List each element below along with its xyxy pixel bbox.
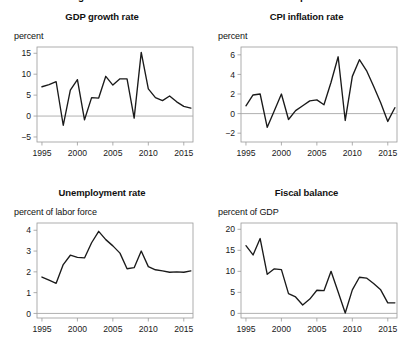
data-series-line xyxy=(246,239,395,313)
y-tick-label: 4 xyxy=(26,225,31,235)
y-tick-label: 10 xyxy=(21,69,31,79)
x-tick-label: 1995 xyxy=(236,324,255,334)
plot-frame xyxy=(241,223,397,318)
y-tick-label: 6 xyxy=(230,50,235,60)
x-tick-label: 2005 xyxy=(307,148,326,158)
plot-frame xyxy=(37,47,193,142)
x-tick-label: 2005 xyxy=(103,324,122,334)
x-tick-label: 2010 xyxy=(343,148,362,158)
chart-fiscal-balance: 0510152019952000200520102015 xyxy=(204,176,409,353)
panel-unemployment-rate: Unemployment rate percent of labor force… xyxy=(0,176,204,353)
x-tick-label: 2015 xyxy=(378,148,397,158)
y-tick-label: 15 xyxy=(225,245,235,255)
data-series-line xyxy=(42,231,191,283)
y-tick-label: 10 xyxy=(225,266,235,276)
x-tick-label: 2005 xyxy=(307,324,326,334)
x-tick-label: 1995 xyxy=(32,148,51,158)
y-tick-label: 0 xyxy=(26,309,31,319)
y-tick-label: 3 xyxy=(26,246,31,256)
y-tick-label: −2 xyxy=(225,128,235,138)
x-tick-label: 2005 xyxy=(103,148,122,158)
y-tick-label: 4 xyxy=(230,70,235,80)
x-tick-label: 2010 xyxy=(139,324,158,334)
y-tick-label: 5 xyxy=(26,90,31,100)
x-tick-label: 2000 xyxy=(272,324,291,334)
y-tick-label: 0 xyxy=(230,308,235,318)
x-tick-label: 2015 xyxy=(174,324,193,334)
chart-cpi-inflation-rate: −2024619952000200520102015 xyxy=(204,0,409,176)
data-series-line xyxy=(246,57,395,128)
y-tick-label: 1 xyxy=(26,288,31,298)
y-tick-label: 5 xyxy=(230,287,235,297)
x-tick-label: 2015 xyxy=(378,324,397,334)
x-tick-label: 2000 xyxy=(272,148,291,158)
y-tick-label: 2 xyxy=(230,89,235,99)
x-tick-label: 1995 xyxy=(236,148,255,158)
y-tick-label: 0 xyxy=(230,109,235,119)
chart-gdp-growth-rate: −505101519952000200520102015 xyxy=(0,0,204,176)
chart-grid: GDP growth rate percent −505101519952000… xyxy=(0,0,409,353)
x-tick-label: 2015 xyxy=(174,148,193,158)
y-tick-label: 2 xyxy=(26,267,31,277)
x-tick-label: 2010 xyxy=(139,148,158,158)
x-tick-label: 1995 xyxy=(32,324,51,334)
panel-cpi-inflation-rate: CPI inflation rate percent −202461995200… xyxy=(204,0,409,176)
y-tick-label: 15 xyxy=(21,48,31,58)
panel-fiscal-balance: Fiscal balance percent of GDP 0510152019… xyxy=(204,176,409,353)
panel-gdp-growth-rate: GDP growth rate percent −505101519952000… xyxy=(0,0,204,176)
data-series-line xyxy=(42,52,191,125)
y-tick-label: 20 xyxy=(225,224,235,234)
x-tick-label: 2010 xyxy=(343,324,362,334)
x-tick-label: 2000 xyxy=(68,148,87,158)
chart-unemployment-rate: 0123419952000200520102015 xyxy=(0,176,204,353)
x-tick-label: 2000 xyxy=(68,324,87,334)
y-tick-label: −5 xyxy=(21,132,31,142)
plot-frame xyxy=(241,47,397,142)
y-tick-label: 0 xyxy=(26,111,31,121)
